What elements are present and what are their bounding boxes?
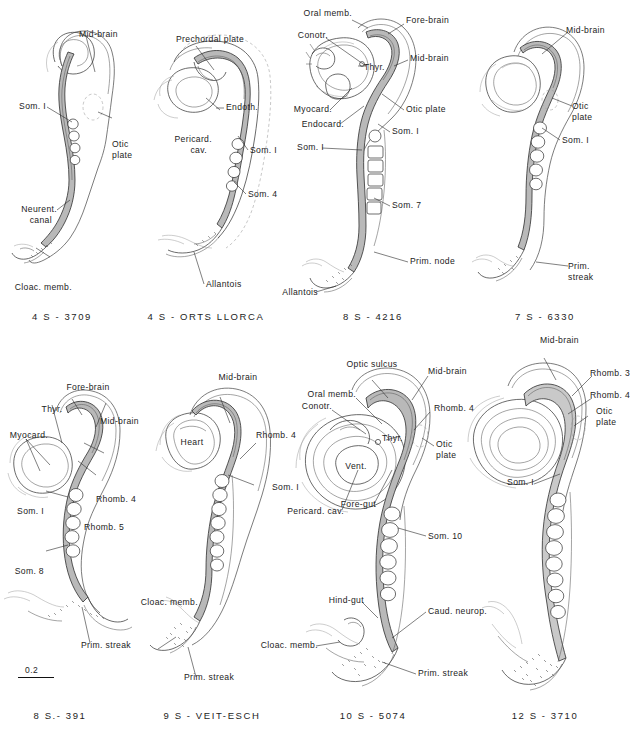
label-heart: Heart: [181, 438, 204, 448]
label-otic-plate: plate: [572, 113, 592, 123]
label-prim-streak: Prim. streak: [184, 673, 234, 683]
label-som-1: Som. I: [250, 146, 277, 156]
label-fore-gut: Fore-gut: [341, 500, 376, 510]
label-otic-plate: plate: [596, 418, 616, 428]
embryo-drawing-p2: [150, 0, 305, 300]
label-cloac-memb: Cloac. memb.: [15, 283, 72, 293]
panel-7s-6330: Mid-brain Otic plate Som. I Prim. streak: [468, 0, 628, 305]
label-mid-brain: Mid-brain: [428, 367, 467, 377]
label-mid-brain: Mid-brain: [540, 336, 579, 346]
label-otic-plate: plate: [112, 151, 132, 161]
embryo-drawing-p8: [468, 350, 628, 700]
label-mid-brain: Mid-brain: [79, 30, 118, 40]
label-prim-streak: streak: [568, 273, 594, 283]
label-myocard: Myocard.: [10, 431, 48, 441]
label-fore-brain: Fore-brain: [66, 383, 109, 393]
label-som-8: Som. 8: [15, 567, 44, 577]
caption-p7: 10 S - 5074: [340, 710, 407, 721]
label-rhomb-5: Rhomb. 5: [84, 523, 124, 533]
panel-8s-391: Fore-brain Thyr. Mid-brain Myocard. Rhom…: [0, 355, 152, 700]
panel-4s-orts-llorca: Prechordal plate Endoth. Pericard. cav. …: [150, 0, 305, 300]
label-rhomb-3: Rhomb. 3: [590, 369, 630, 379]
label-pericard-cav: cav.: [190, 146, 207, 156]
scale-bar: 0.2: [18, 665, 54, 678]
label-neurent: Neurent.: [21, 205, 57, 215]
label-mid-brain: Mid-brain: [566, 26, 605, 36]
label-mid-brain: Mid-brain: [219, 373, 258, 383]
label-rhomb-4: Rhomb. 4: [256, 431, 296, 441]
label-otic: Otic: [572, 102, 589, 112]
label-oral-memb: Oral memb.: [304, 9, 352, 19]
label-optic-sulcus: Optic sulcus: [346, 360, 397, 370]
label-prim-node: Prim. node: [410, 257, 455, 267]
label-allantois: Allantois: [206, 280, 242, 290]
label-prim: Prim.: [568, 262, 590, 272]
label-thyr: Thyr.: [42, 405, 63, 415]
label-otic: Otic: [112, 140, 129, 150]
label-som-1: Som. I: [19, 102, 46, 112]
label-rhomb-4: Rhomb. 4: [96, 495, 136, 505]
label-fore-brain: Fore-brain: [406, 16, 449, 26]
scale-bar-line: [18, 677, 54, 678]
panel-10s-5074: Optic sulcus Mid-brain Oral memb. Conotr…: [296, 350, 468, 700]
label-otic-plate: Otic plate: [406, 105, 446, 115]
label-conotr: Conotr.: [298, 31, 328, 41]
label-mid-brain: Mid-brain: [410, 54, 449, 64]
label-pericard: Pericard.: [174, 135, 212, 145]
label-otic-plate: plate: [436, 451, 456, 461]
label-conotr: Conotr.: [302, 402, 332, 412]
label-allantois: Allantois: [282, 288, 318, 298]
label-cloac-memb: Cloac. memb.: [141, 598, 198, 608]
label-prechordal-plate: Prechordal plate: [176, 35, 244, 45]
label-som-1: Som. I: [17, 507, 44, 517]
caption-p8: 12 S - 3710: [512, 710, 579, 721]
panel-12s-3710: Mid-brain Rhomb. 3 Rhomb. 4 Otic plate S…: [468, 350, 628, 700]
label-prim-streak: Prim. streak: [81, 641, 131, 651]
caption-p6: 9 S - VEIT-ESCH: [164, 710, 261, 721]
label-vent: Vent.: [345, 462, 366, 472]
caption-p3: 8 S - 4216: [343, 311, 403, 322]
label-mid-brain: Mid-brain: [100, 417, 139, 427]
label-som-1-r: Som. I: [392, 127, 419, 137]
label-pericard-cav: Pericard. cav.: [287, 507, 344, 517]
label-prim-streak: Prim. streak: [418, 669, 468, 679]
label-som-7: Som. 7: [392, 201, 421, 211]
label-myocard: Myocard.: [294, 105, 332, 115]
scale-bar-value: 0.2: [18, 665, 54, 675]
label-som-4: Som. 4: [248, 190, 277, 200]
label-neurent-canal: canal: [30, 216, 52, 226]
panel-8s-4216: Oral memb. Fore-brain Conotr. Mid-brain …: [296, 0, 468, 305]
panel-4s-3709: Mid-brain Som. I Otic plate Neurent. can…: [0, 0, 150, 300]
label-thyr: Thyr.: [382, 434, 403, 444]
embryo-drawing-p4: [468, 0, 628, 305]
label-endocard: Endocard.: [302, 120, 344, 130]
label-thyr: Thyr.: [364, 63, 385, 73]
label-hind-gut: Hind-gut: [329, 596, 364, 606]
label-rhomb-4: Rhomb. 4: [590, 391, 630, 401]
label-som-1-l: Som. I: [297, 143, 324, 153]
caption-p2: 4 S - ORTS LLORCA: [148, 311, 265, 322]
label-otic: Otic: [436, 440, 453, 450]
caption-p5: 8 S.- 391: [34, 710, 87, 721]
label-cloac-memb: Cloac. memb.: [261, 641, 318, 651]
label-som-1: Som. I: [507, 478, 534, 488]
label-som-10: Som. 10: [428, 532, 462, 542]
label-otic: Otic: [596, 407, 613, 417]
caption-p1: 4 S - 3709: [32, 311, 92, 322]
label-oral-memb: Oral memb.: [308, 390, 356, 400]
caption-p4: 7 S - 6330: [515, 311, 575, 322]
label-endoth: Endoth.: [226, 103, 258, 113]
label-som-1: Som. I: [272, 483, 299, 493]
label-som-1: Som. I: [562, 136, 589, 146]
